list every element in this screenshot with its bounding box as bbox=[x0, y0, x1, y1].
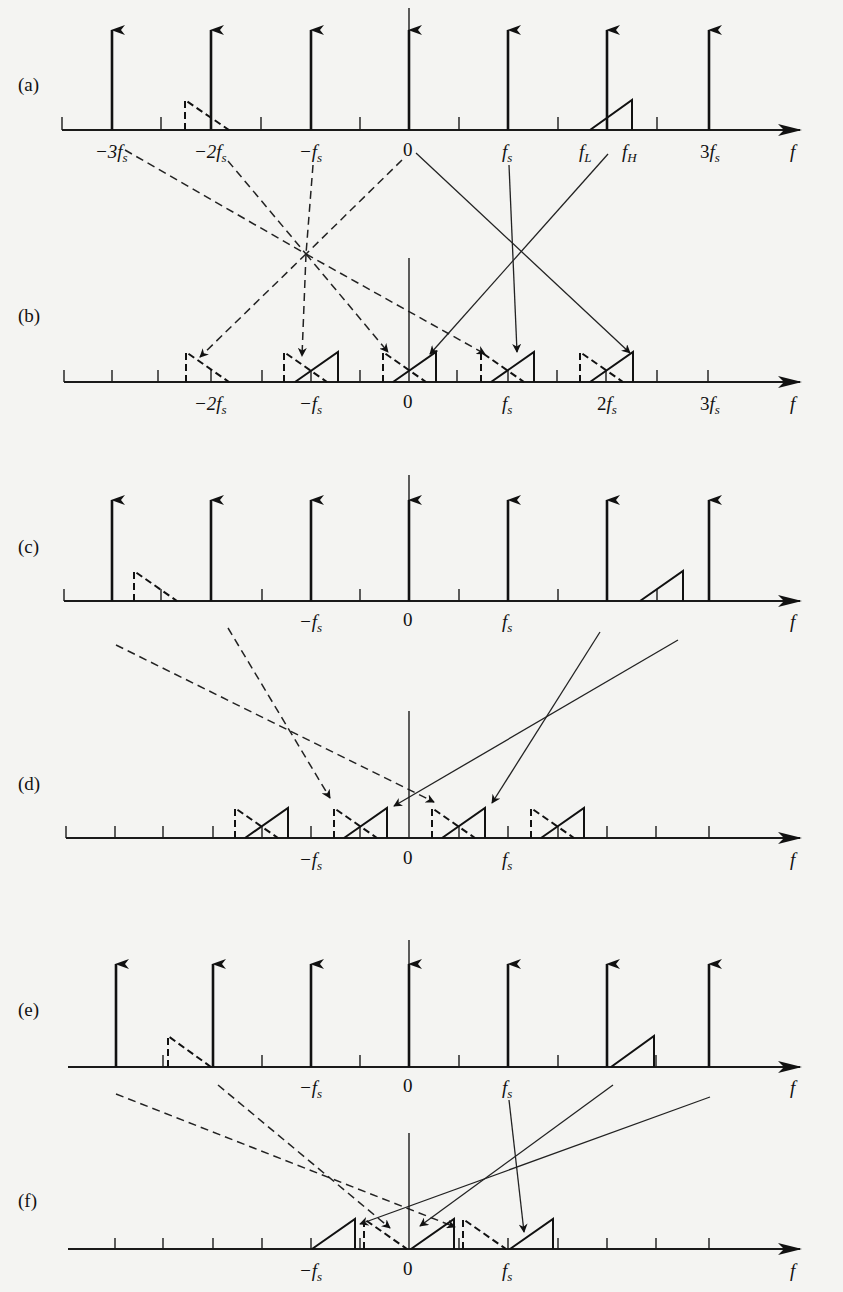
panel-d: (d) −fs 0 fs f bbox=[18, 711, 800, 873]
svg-text:−2fs: −2fs bbox=[194, 141, 227, 165]
mapping-arrows-a-to-b bbox=[125, 150, 630, 357]
svg-text:0: 0 bbox=[403, 391, 413, 412]
tick-labels: −fs 0 fs f bbox=[299, 1075, 798, 1101]
panel-a: (a) −3fs −2fs −fs bbox=[18, 8, 800, 165]
svg-text:fs: fs bbox=[502, 1260, 512, 1284]
panel-d-label: (d) bbox=[18, 773, 40, 795]
svg-text:−2fs: −2fs bbox=[194, 393, 227, 417]
svg-text:3fs: 3fs bbox=[700, 141, 720, 165]
positive-band-spectrum bbox=[611, 1036, 654, 1067]
svg-text:f: f bbox=[790, 1260, 798, 1281]
axis-ticks bbox=[64, 370, 708, 382]
replicated-spectra bbox=[312, 1219, 553, 1249]
svg-text:−fs: −fs bbox=[299, 141, 322, 165]
svg-text:fs: fs bbox=[502, 849, 512, 873]
svg-text:fs: fs bbox=[502, 141, 512, 165]
svg-text:0: 0 bbox=[403, 609, 413, 630]
mapping-arrows-e-to-f bbox=[116, 1085, 710, 1232]
mapping-arrows-c-to-d bbox=[116, 628, 678, 806]
panel-c: (c) −fs 0 fs f bbox=[18, 475, 800, 635]
svg-text:f: f bbox=[790, 141, 798, 162]
svg-text:3fs: 3fs bbox=[700, 393, 720, 417]
svg-text:0: 0 bbox=[403, 139, 413, 160]
svg-text:fH: fH bbox=[622, 141, 637, 165]
negative-band-spectrum bbox=[168, 1036, 211, 1067]
svg-text:fs: fs bbox=[502, 1077, 512, 1101]
svg-text:fL: fL bbox=[579, 141, 592, 165]
svg-text:−3fs: −3fs bbox=[95, 141, 128, 165]
impulse-train bbox=[112, 500, 709, 601]
svg-text:f: f bbox=[790, 849, 798, 870]
tick-labels: −fs 0 fs f bbox=[299, 609, 798, 635]
tick-labels: −fs 0 fs f bbox=[299, 1258, 798, 1284]
svg-text:0: 0 bbox=[403, 847, 413, 868]
svg-text:0: 0 bbox=[403, 1075, 413, 1096]
axis-ticks bbox=[64, 589, 657, 601]
positive-band-spectrum bbox=[590, 100, 632, 130]
negative-band-spectrum bbox=[134, 571, 177, 601]
panel-e: (e) −fs 0 fs f bbox=[18, 940, 800, 1101]
panel-f: (f) −fs 0 fs f bbox=[18, 1133, 800, 1284]
panel-b-label: (b) bbox=[18, 305, 40, 327]
svg-text:−fs: −fs bbox=[299, 1077, 322, 1101]
panel-a-label: (a) bbox=[18, 74, 39, 96]
svg-text:f: f bbox=[790, 1077, 798, 1098]
svg-text:0: 0 bbox=[403, 1258, 413, 1279]
svg-text:−fs: −fs bbox=[299, 393, 322, 417]
impulse-train bbox=[116, 964, 709, 1067]
svg-text:−fs: −fs bbox=[299, 849, 322, 873]
svg-text:−fs: −fs bbox=[299, 1260, 322, 1284]
positive-band-spectrum bbox=[640, 571, 683, 601]
tick-labels: −3fs −2fs −fs 0 fs fL fH 3fs f bbox=[95, 139, 798, 165]
svg-text:fs: fs bbox=[502, 393, 512, 417]
svg-text:−fs: −fs bbox=[299, 611, 322, 635]
negative-band-spectrum bbox=[185, 100, 229, 130]
tick-labels: −2fs −fs 0 fs 2fs 3fs f bbox=[194, 391, 798, 417]
panel-b: (b) −2fs −fs 0 fs 2fs 3fs f bbox=[18, 258, 800, 417]
panel-c-label: (c) bbox=[18, 536, 39, 558]
panel-e-label: (e) bbox=[18, 999, 39, 1021]
panel-f-label: (f) bbox=[18, 1190, 37, 1212]
bandpass-sampling-figure: (a) −3fs −2fs −fs bbox=[0, 0, 843, 1292]
svg-text:f: f bbox=[790, 393, 798, 414]
tick-labels: −fs 0 fs f bbox=[299, 847, 798, 873]
svg-text:2fs: 2fs bbox=[597, 393, 617, 417]
impulse-train bbox=[112, 30, 709, 130]
svg-text:fs: fs bbox=[502, 611, 512, 635]
axis-ticks bbox=[62, 117, 657, 130]
svg-text:f: f bbox=[790, 611, 798, 632]
